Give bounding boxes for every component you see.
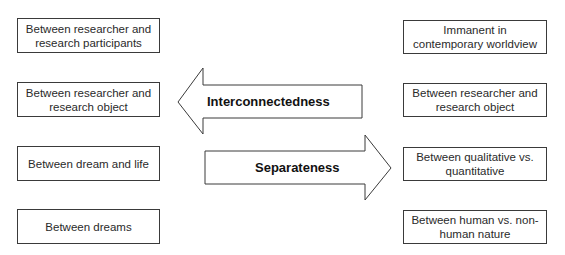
interconnectedness-label: Interconnectedness — [207, 94, 330, 109]
arrows-layer — [0, 0, 565, 255]
separateness-label: Separateness — [255, 160, 340, 175]
